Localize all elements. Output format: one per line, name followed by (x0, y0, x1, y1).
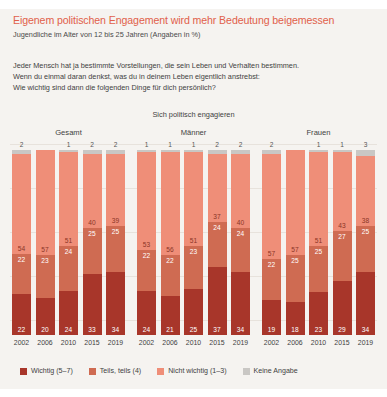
x-tick-label: 2006 (161, 339, 180, 346)
keine-angabe-value-label (286, 139, 305, 150)
segment-wichtig: 18 (286, 302, 305, 335)
segment-nicht-wichtig: 43 (333, 152, 352, 232)
legend-label: Teils, teils (4) (100, 367, 141, 375)
top-white-strip (0, 0, 387, 9)
x-tick-label: 2006 (36, 339, 55, 346)
segment-wichtig: 33 (83, 274, 102, 335)
legend-item-nicht-wichtig[interactable]: Nicht wichtig (1–3) (157, 367, 226, 375)
stacked-bar[interactable]: 392534 (106, 150, 125, 335)
bar-wrapper[interactable]: 1562221 (161, 139, 180, 335)
stacked-bar[interactable]: 532224 (137, 150, 156, 335)
stacked-bar-chart: Gesamt2542222572320151242424025332392534… (0, 126, 387, 356)
stacked-bar[interactable]: 512424 (59, 150, 78, 335)
keine-angabe-value-label: 2 (262, 139, 281, 150)
group-bars: 2542222572320151242424025332392534 (12, 139, 125, 335)
segment-value-label: 37 (213, 326, 220, 333)
legend-item-teils[interactable]: Teils, teils (4) (89, 367, 141, 375)
legend-item-keine-angabe[interactable]: Keine Angabe (243, 367, 298, 375)
stacked-bar[interactable]: 542222 (12, 150, 31, 335)
bar-wrapper[interactable]: 2572219 (262, 139, 281, 335)
segment-value-label: 43 (338, 222, 345, 229)
bar-wrapper[interactable]: 572518 (286, 139, 305, 335)
bar-wrapper[interactable]: 1432729 (333, 139, 352, 335)
segment-teils-teils: 25 (356, 226, 375, 272)
x-tick-label: 2002 (12, 339, 31, 346)
stacked-bar[interactable]: 512325 (184, 150, 203, 335)
stacked-bar[interactable]: 382534 (356, 150, 375, 335)
segment-teils-teils: 24 (231, 228, 250, 272)
keine-angabe-value-label: 2 (208, 139, 227, 150)
segment-wichtig: 21 (161, 296, 180, 335)
segment-nicht-wichtig: 51 (184, 152, 203, 246)
bar-wrapper[interactable]: 3382534 (356, 139, 375, 335)
segment-nicht-wichtig: 40 (83, 154, 102, 228)
keine-angabe-value-label: 1 (309, 139, 328, 150)
segment-value-label: 20 (41, 326, 48, 333)
segment-value-label: 22 (18, 256, 25, 263)
stacked-bar[interactable]: 572219 (262, 150, 281, 335)
bar-wrapper[interactable]: 2542222 (12, 139, 31, 335)
stacked-bar[interactable]: 572320 (36, 150, 55, 335)
legend-swatch-icon (157, 368, 164, 375)
segment-value-label: 23 (315, 326, 322, 333)
keine-angabe-value-label: 2 (12, 139, 31, 150)
group-year-axis: 20022006201020152019 (137, 339, 250, 346)
bar-wrapper[interactable]: 2402434 (231, 139, 250, 335)
segment-wichtig: 19 (262, 300, 281, 335)
stacked-bar[interactable]: 572518 (286, 150, 305, 335)
segment-value-label: 22 (143, 252, 150, 259)
bar-wrapper[interactable]: 572320 (36, 139, 55, 335)
segment-nicht-wichtig: 53 (137, 152, 156, 250)
stacked-bar[interactable]: 562221 (161, 150, 180, 335)
group-year-axis: 20022006201020152019 (262, 339, 375, 346)
keine-angabe-value-label: 1 (333, 139, 352, 150)
segment-teils-teils: 22 (161, 255, 180, 296)
bar-wrapper[interactable]: 1532224 (137, 139, 156, 335)
group-title: Frauen (262, 126, 375, 139)
group-title: Gesamt (12, 126, 125, 139)
x-tick-label: 2006 (286, 339, 305, 346)
bar-wrapper[interactable]: 2392534 (106, 139, 125, 335)
x-tick-label: 2010 (184, 339, 203, 346)
x-tick-label: 2015 (333, 339, 352, 346)
segment-value-label: 51 (65, 237, 72, 244)
segment-wichtig: 29 (333, 281, 352, 335)
bar-wrapper[interactable]: 2372437 (208, 139, 227, 335)
segment-wichtig: 22 (12, 294, 31, 335)
stacked-bar[interactable]: 402533 (83, 150, 102, 335)
bar-wrapper[interactable]: 1512523 (309, 139, 328, 335)
segment-teils-teils: 24 (208, 222, 227, 266)
segment-wichtig: 24 (59, 291, 78, 335)
bar-wrapper[interactable]: 2402533 (83, 139, 102, 335)
x-tick-label: 2010 (59, 339, 78, 346)
stacked-bar[interactable]: 372437 (208, 150, 227, 335)
segment-value-label: 24 (65, 326, 72, 333)
keine-angabe-value-label: 1 (59, 139, 78, 150)
segment-value-label: 38 (362, 217, 369, 224)
chart-legend: Wichtig (5–7)Teils, teils (4)Nicht wicht… (0, 367, 387, 375)
segment-teils-teils: 23 (36, 255, 55, 298)
bar-wrapper[interactable]: 1512424 (59, 139, 78, 335)
segment-nicht-wichtig: 37 (208, 154, 227, 222)
stacked-bar[interactable]: 402434 (231, 150, 250, 335)
x-tick-label: 2019 (231, 339, 250, 346)
segment-wichtig: 23 (309, 292, 328, 335)
stacked-bar[interactable]: 432729 (333, 150, 352, 335)
legend-swatch-icon (20, 368, 27, 375)
segment-teils-teils: 25 (286, 255, 305, 301)
segment-value-label: 18 (291, 326, 298, 333)
legend-label: Wichtig (5–7) (31, 367, 73, 375)
segment-value-label: 22 (268, 261, 275, 268)
keine-angabe-value-label: 3 (356, 139, 375, 150)
segment-teils-teils: 24 (59, 246, 78, 290)
segment-nicht-wichtig: 51 (309, 152, 328, 246)
segment-nicht-wichtig: 56 (161, 152, 180, 256)
segment-teils-teils: 25 (106, 226, 125, 272)
keine-angabe-value-label (36, 139, 55, 150)
keine-angabe-value-label: 2 (231, 139, 250, 150)
segment-value-label: 25 (315, 248, 322, 255)
stacked-bar[interactable]: 512523 (309, 150, 328, 335)
segment-value-label: 25 (190, 326, 197, 333)
bar-wrapper[interactable]: 1512325 (184, 139, 203, 335)
legend-item-wichtig[interactable]: Wichtig (5–7) (20, 367, 73, 375)
